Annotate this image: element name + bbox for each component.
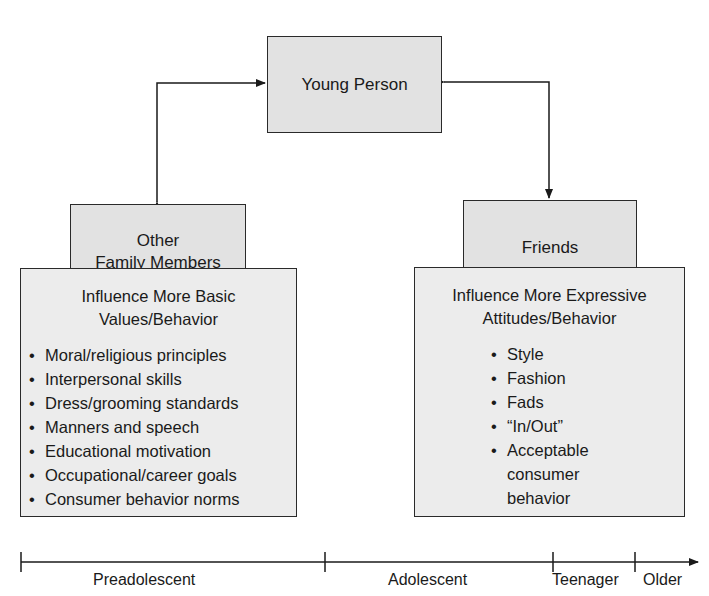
timeline-label-preadolescent: Preadolescent <box>93 570 195 590</box>
basic-values-list: Moral/religious principles Interpersonal… <box>29 343 296 511</box>
expressive-attitudes-title: Influence More Expressive Attitudes/Beha… <box>415 284 684 330</box>
list-item: Occupational/career goals <box>29 463 296 487</box>
list-item: Fashion <box>491 366 684 390</box>
list-item: Style <box>491 342 684 366</box>
list-item: Manners and speech <box>29 415 296 439</box>
list-item: “In/Out” <box>491 414 684 438</box>
list-item: Moral/religious principles <box>29 343 296 367</box>
timeline-label-teenager: Teenager <box>552 570 619 590</box>
timeline-axis <box>21 552 698 572</box>
list-item: Educational motivation <box>29 439 296 463</box>
list-item: Acceptable consumer behavior <box>491 438 684 510</box>
expressive-attitudes-list: Style Fashion Fads “In/Out” Acceptable c… <box>491 342 684 510</box>
list-item: Interpersonal skills <box>29 367 296 391</box>
friends-label: Friends <box>522 237 579 259</box>
list-item: Consumer behavior norms <box>29 487 296 511</box>
expressive-attitudes-panel: Influence More Expressive Attitudes/Beha… <box>414 267 685 517</box>
basic-values-panel: Influence More Basic Values/Behavior Mor… <box>20 268 297 517</box>
arrow-young-person-family <box>157 83 265 202</box>
family-label-line1: Other <box>137 230 180 252</box>
timeline-label-older: Older <box>643 570 682 590</box>
basic-values-title: Influence More Basic Values/Behavior <box>21 285 296 331</box>
list-item: Fads <box>491 390 684 414</box>
timeline-label-adolescent: Adolescent <box>388 570 467 590</box>
arrow-young-person-friends <box>444 82 549 198</box>
young-person-node: Young Person <box>267 36 442 133</box>
young-person-label: Young Person <box>301 74 407 96</box>
list-item: Dress/grooming standards <box>29 391 296 415</box>
